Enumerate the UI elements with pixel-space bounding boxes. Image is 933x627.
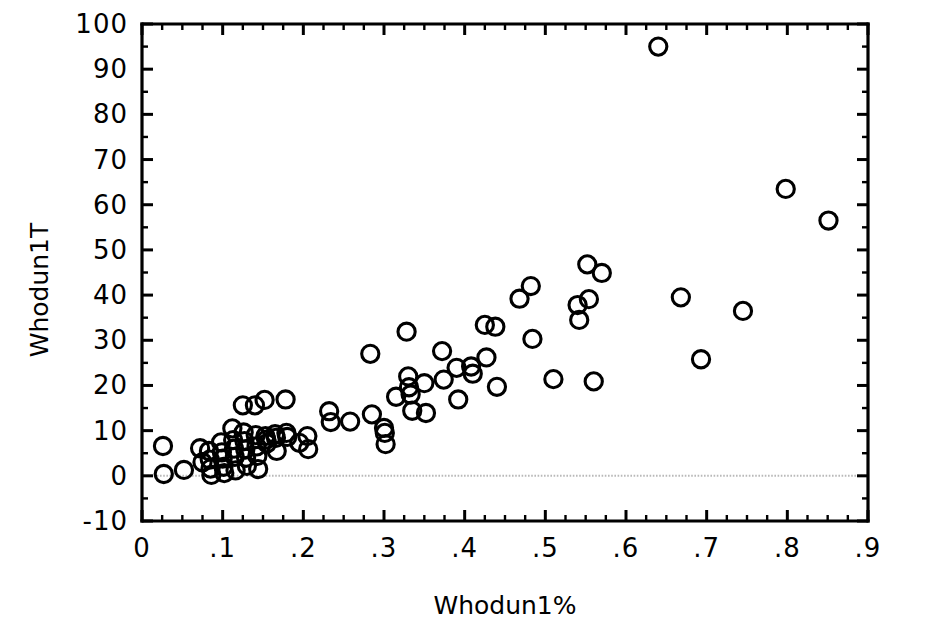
data-point <box>488 378 505 395</box>
y-tick-label: 50 <box>93 235 128 265</box>
data-point <box>692 351 709 368</box>
data-point <box>545 371 562 388</box>
data-point <box>342 413 359 430</box>
data-point <box>433 343 450 360</box>
data-point <box>398 323 415 340</box>
data-point <box>362 345 379 362</box>
y-axis-title: Whodun1T <box>25 222 54 357</box>
x-tick-label: .5 <box>532 533 559 563</box>
x-tick-label: .6 <box>613 533 640 563</box>
x-tick-label: .7 <box>693 533 720 563</box>
plot-canvas: 0.1.2.3.4.5.6.7.8.9 -1001020304050607080… <box>0 0 933 627</box>
data-point <box>155 465 172 482</box>
data-point <box>524 330 541 347</box>
x-tick-label: .1 <box>209 533 236 563</box>
data-point <box>487 318 504 335</box>
x-tick-label: .8 <box>774 533 801 563</box>
data-point <box>522 277 539 294</box>
x-tick-label: .2 <box>290 533 317 563</box>
y-tick-label: 60 <box>93 190 128 220</box>
y-tick-label: 70 <box>93 145 128 175</box>
y-tick-label: -10 <box>83 506 128 536</box>
x-axis-tick-labels: 0.1.2.3.4.5.6.7.8.9 <box>133 533 881 563</box>
data-point <box>450 391 467 408</box>
y-tick-label: 30 <box>93 325 128 355</box>
y-tick-label: 20 <box>93 370 128 400</box>
data-point <box>154 437 171 454</box>
y-tick-label: 0 <box>110 461 128 491</box>
x-tick-label: .4 <box>451 533 478 563</box>
x-axis-title: Whodun1% <box>433 591 576 620</box>
y-tick-label: 80 <box>93 99 128 129</box>
y-tick-label: 100 <box>75 9 128 39</box>
y-tick-label: 40 <box>93 280 128 310</box>
x-tick-label: .9 <box>855 533 882 563</box>
x-tick-label: 0 <box>133 533 151 563</box>
data-point <box>593 264 610 281</box>
data-point-markers <box>154 38 837 484</box>
scatter-plot-figure: 0.1.2.3.4.5.6.7.8.9 -1001020304050607080… <box>0 0 933 627</box>
data-point <box>734 302 751 319</box>
y-tick-label: 90 <box>93 54 128 84</box>
data-point <box>322 413 339 430</box>
data-point <box>585 373 602 390</box>
data-point <box>478 349 495 366</box>
x-tick-label: .3 <box>371 533 398 563</box>
data-point <box>416 375 433 392</box>
data-point <box>672 289 689 306</box>
y-axis-tick-labels: -100102030405060708090100 <box>75 9 128 536</box>
y-tick-label: 10 <box>93 416 128 446</box>
data-point <box>277 391 294 408</box>
data-point <box>377 436 394 453</box>
data-point <box>820 212 837 229</box>
data-point <box>777 180 794 197</box>
data-point <box>650 38 667 55</box>
